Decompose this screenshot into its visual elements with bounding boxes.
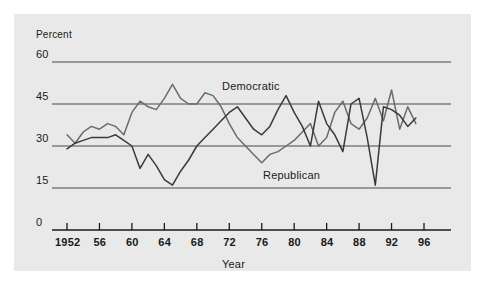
- x-tick-label-1976: 76: [256, 236, 269, 248]
- series-label-democratic: Democratic: [222, 80, 280, 92]
- x-tick-label-1996: 96: [418, 236, 431, 248]
- x-tick-label-1960: 60: [126, 236, 139, 248]
- line-chart-plot: [14, 14, 471, 271]
- x-tick-label-1992: 92: [386, 236, 399, 248]
- series-lines-group: [67, 84, 416, 185]
- x-tick-label-1968: 68: [191, 236, 204, 248]
- x-tick-label-1964: 64: [158, 236, 171, 248]
- y-tick-label-60: 60: [36, 48, 49, 60]
- x-axis-group: [67, 223, 424, 230]
- x-tick-label-1956: 56: [93, 236, 106, 248]
- y-tick-label-0: 0: [36, 216, 42, 228]
- x-tick-label-1952: 1952: [55, 236, 80, 248]
- y-tick-label-30: 30: [36, 132, 49, 144]
- x-tick-label-1972: 72: [223, 236, 236, 248]
- x-tick-label-1980: 80: [288, 236, 301, 248]
- y-tick-label-15: 15: [36, 174, 49, 186]
- series-label-republican: Republican: [263, 169, 320, 181]
- y-tick-label-45: 45: [36, 90, 49, 102]
- x-tick-label-1984: 84: [321, 236, 334, 248]
- x-axis-title: Year: [222, 258, 245, 270]
- x-tick-label-1988: 88: [353, 236, 366, 248]
- series-line-republican: [67, 96, 416, 186]
- chart-figure: Percent 015304560 1952566064687276808488…: [14, 14, 471, 271]
